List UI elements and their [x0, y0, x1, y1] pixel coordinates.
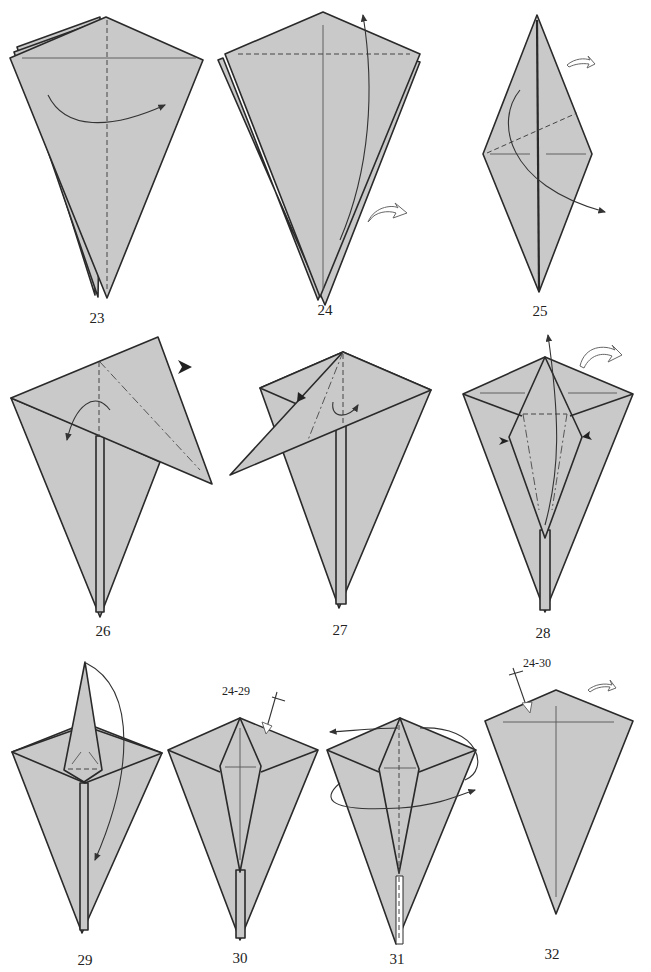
repeat-label-24-29: 24-29: [222, 684, 250, 699]
step-28-diagram: [463, 335, 633, 612]
step-24-diagram: [218, 12, 420, 305]
step-30-diagram: [168, 692, 318, 940]
turn-over-arrow-icon: [580, 345, 622, 368]
step-number-30: 30: [233, 950, 248, 967]
step-32-diagram: [485, 668, 633, 914]
step-number-28: 28: [536, 625, 551, 642]
step-number-31: 31: [390, 951, 405, 968]
step-29-diagram: [12, 662, 162, 933]
push-arrow-icon: [178, 360, 192, 374]
origami-diagram-sheet: [0, 0, 651, 972]
step-number-27: 27: [333, 622, 348, 639]
step-number-29: 29: [78, 952, 93, 969]
step-number-32: 32: [545, 946, 560, 963]
repeat-label-24-30: 24-30: [523, 656, 551, 671]
step-number-25: 25: [533, 303, 548, 320]
turn-over-arrow-icon: [588, 680, 616, 692]
step-number-26: 26: [96, 623, 111, 640]
step-27-diagram: [230, 352, 431, 608]
step-26-diagram: [11, 337, 212, 617]
step-number-24: 24: [318, 302, 333, 319]
step-number-23: 23: [90, 310, 105, 327]
turn-over-arrow-icon: [567, 56, 595, 68]
step-31-diagram: [327, 718, 478, 944]
step-23-diagram: [10, 17, 203, 298]
step-25-diagram: [483, 15, 605, 292]
repeat-arrow-line: [513, 668, 527, 708]
turn-over-arrow-icon: [368, 203, 407, 222]
